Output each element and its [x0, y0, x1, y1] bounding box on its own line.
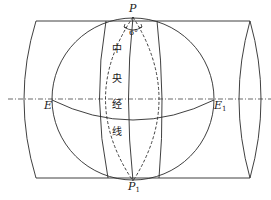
cylinder-left-edge: [24, 21, 36, 178]
zone-right-meridian: [157, 21, 162, 178]
cylinder-right-ellipse-back: [250, 21, 261, 178]
equator-arc: [52, 100, 214, 120]
label-north-pole: P: [129, 3, 136, 14]
label-equator-right-base: E: [214, 99, 222, 112]
label-central-meridian-char-2: 央: [112, 74, 122, 84]
label-south-pole-sub: 1: [135, 186, 139, 194]
label-central-meridian-char-3: 经: [112, 100, 122, 110]
zone-left-meridian: [99, 21, 108, 178]
label-angle: 6°: [129, 29, 138, 37]
label-central-meridian-char-4: 线: [112, 127, 122, 137]
label-equator-right-sub: 1: [222, 105, 226, 113]
label-equator-left: E: [44, 100, 52, 111]
label-south-pole: P1: [128, 181, 140, 194]
label-equator-right: E1: [214, 100, 227, 113]
cylinder-right-ellipse-front: [239, 21, 250, 178]
label-central-meridian-char-1: 中: [112, 44, 122, 54]
projection-diagram: P P1 E E1 6° 中 央 经 线: [0, 0, 271, 200]
